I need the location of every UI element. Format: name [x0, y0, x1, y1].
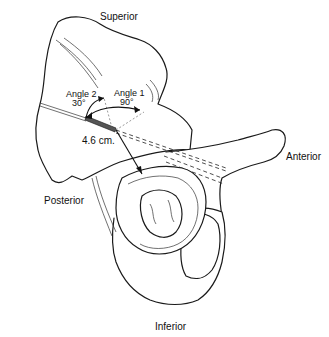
label-superior: Superior [100, 11, 138, 22]
distance-label: 4.6 cm. [82, 135, 115, 146]
label-inferior: Inferior [155, 321, 187, 332]
angle1-value: 90° [120, 97, 134, 107]
label-posterior: Posterior [44, 195, 85, 206]
angle2-value: 30° [72, 98, 86, 108]
label-anterior: Anterior [286, 151, 322, 162]
hip-bone-diagram: Superior Inferior Anterior Posterior Ang… [0, 0, 329, 337]
